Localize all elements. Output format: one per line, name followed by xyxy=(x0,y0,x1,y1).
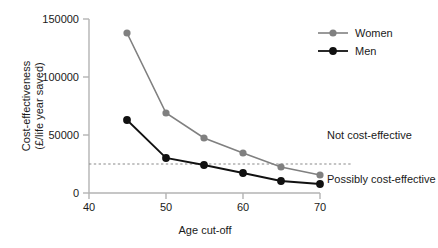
y-axis-title-line1: Cost-effectiveness xyxy=(20,60,32,151)
data-point-men-70 xyxy=(316,180,324,188)
annotation-not-cost-effective: Not cost-effective xyxy=(327,129,412,141)
data-point-women-65 xyxy=(277,163,284,170)
data-point-women-70 xyxy=(316,171,323,178)
y-tick-label-150000: 150000 xyxy=(42,13,79,25)
y-tick-label-50000: 50000 xyxy=(48,129,79,141)
series-women-line xyxy=(127,33,320,175)
series-men xyxy=(123,116,324,188)
x-axis-ticks xyxy=(89,193,320,199)
x-tick-label-40: 40 xyxy=(83,201,95,213)
legend-label-men: Men xyxy=(355,45,376,57)
x-tick-label-60: 60 xyxy=(237,201,249,213)
y-axis-tick-labels: 150000 100000 50000 0 xyxy=(42,13,79,199)
legend-label-women: Women xyxy=(355,27,393,39)
annotation-possibly-cost-effective: Possibly cost-effective xyxy=(327,173,436,185)
y-tick-label-0: 0 xyxy=(73,187,79,199)
x-tick-label-50: 50 xyxy=(160,201,172,213)
data-point-women-50 xyxy=(162,109,169,116)
x-tick-label-70: 70 xyxy=(314,201,326,213)
series-men-line xyxy=(127,120,320,184)
data-point-men-55 xyxy=(200,161,208,169)
y-axis-title-line2: (£/life year saved) xyxy=(33,62,45,149)
series-women xyxy=(123,29,323,178)
cost-effectiveness-line-chart: 150000 100000 50000 0 40 50 60 70 Age cu… xyxy=(0,0,438,248)
data-point-women-45 xyxy=(123,29,130,36)
x-axis-tick-labels: 40 50 60 70 xyxy=(83,201,326,213)
legend-swatch-women-marker xyxy=(329,29,336,36)
data-point-women-55 xyxy=(200,134,207,141)
y-tick-label-100000: 100000 xyxy=(42,71,79,83)
chart-legend: Women Men xyxy=(318,27,393,57)
data-point-men-50 xyxy=(162,154,170,162)
legend-item-women[interactable]: Women xyxy=(318,27,393,39)
legend-item-men[interactable]: Men xyxy=(318,45,376,57)
chart-figure: 150000 100000 50000 0 40 50 60 70 Age cu… xyxy=(0,0,438,248)
legend-swatch-men-marker xyxy=(329,47,337,55)
data-point-men-60 xyxy=(239,169,247,177)
data-point-men-45 xyxy=(123,116,131,124)
y-axis-ticks xyxy=(83,19,89,193)
x-axis-title: Age cut-off xyxy=(179,224,233,236)
data-point-men-65 xyxy=(277,177,285,185)
data-point-women-60 xyxy=(239,149,246,156)
